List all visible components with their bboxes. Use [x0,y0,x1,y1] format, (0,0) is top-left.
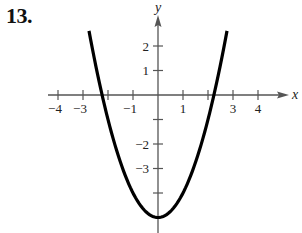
y-tick-label: −2 [135,137,149,152]
x-tick-label: −3 [73,101,87,116]
y-tick-label: 1 [143,63,150,78]
y-axis-label: y [153,0,162,15]
y-tick-label: 2 [143,39,150,54]
x-axis-label: x [291,87,299,102]
x-tick-label: 4 [255,101,262,116]
x-tick-label: 3 [230,101,237,116]
x-tick-label: 1 [180,101,187,116]
axes: xy [48,0,299,233]
tick-labels: −4−3−113421−2−3 [48,39,262,177]
y-tick-label: −3 [135,161,149,176]
x-tick-label: −4 [48,101,62,116]
x-tick-label: −1 [123,101,137,116]
parabola-chart: xy −4−3−113421−2−3 [0,0,302,233]
